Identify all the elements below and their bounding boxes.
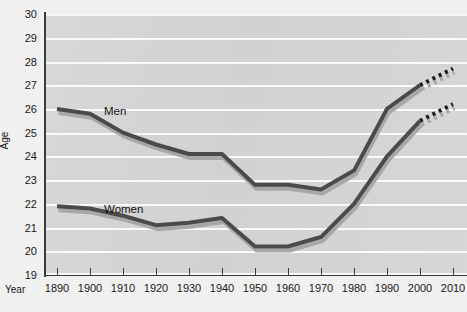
chart-screenshot: 30 29 28 27 26 25 24 23 22 21 20 19 Age … — [0, 0, 467, 312]
series-lines — [0, 0, 467, 312]
series-label-men: Men — [104, 105, 126, 117]
series-label-women: Women — [104, 203, 143, 215]
line-projections — [420, 69, 455, 125]
series-line-women — [57, 121, 420, 247]
